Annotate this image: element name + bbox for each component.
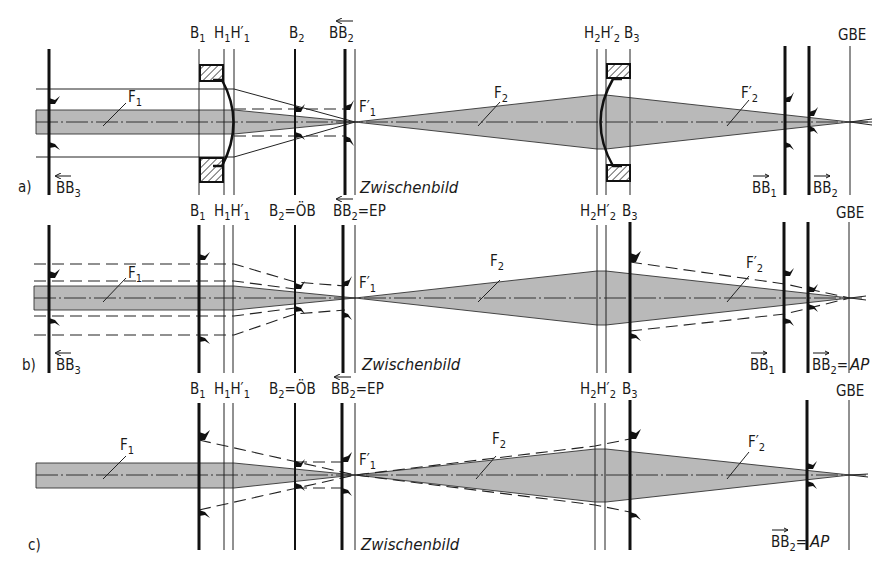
svg-text:GBE: GBE xyxy=(838,26,866,44)
panel-b: B1 H1H′1 B2=ÖB BB2=EP H2H′2B3 GBE F1 F′1… xyxy=(22,199,870,377)
svg-text:BB2=: BB2= xyxy=(771,533,807,554)
svg-text:F1: F1 xyxy=(128,88,142,109)
svg-text:H2H′2B3: H2H′2B3 xyxy=(580,380,638,401)
svg-text:F2: F2 xyxy=(494,84,508,105)
svg-text:F′1: F′1 xyxy=(359,451,376,472)
svg-text:F′2: F′2 xyxy=(748,433,765,454)
svg-text:BB2=EP: BB2=EP xyxy=(331,380,384,401)
svg-text:BB2: BB2 xyxy=(813,179,838,200)
panel-label-b: b) xyxy=(22,356,36,374)
svg-text:AP: AP xyxy=(809,533,830,551)
svg-text:B2: B2 xyxy=(289,24,305,45)
svg-text:GBE: GBE xyxy=(836,382,864,400)
lens1-mount-top xyxy=(200,65,223,81)
svg-text:H2H′2B3: H2H′2B3 xyxy=(580,202,638,223)
svg-text:Zwischenbild: Zwischenbild xyxy=(360,536,460,554)
svg-text:B2=ÖB: B2=ÖB xyxy=(269,201,316,223)
svg-text:F′2: F′2 xyxy=(746,254,763,275)
svg-text:BB1: BB1 xyxy=(752,179,777,200)
svg-text:GBE: GBE xyxy=(836,204,864,222)
svg-text:B2=ÖB: B2=ÖB xyxy=(269,379,316,401)
lens2-mount-top xyxy=(607,64,630,78)
lens1-mount-bottom xyxy=(200,158,223,182)
svg-text:BB3: BB3 xyxy=(56,179,81,200)
svg-text:F1: F1 xyxy=(128,264,142,285)
svg-text:Zwischenbild: Zwischenbild xyxy=(359,179,459,197)
svg-text:AP: AP xyxy=(849,356,870,374)
svg-text:H1H′1: H1H′1 xyxy=(214,202,250,223)
svg-text:F′1: F′1 xyxy=(359,274,376,295)
svg-text:H1H′1: H1H′1 xyxy=(214,380,250,401)
diagram-canvas: B1 H1H′1 B2 BB2 H2H′2B3 GBE F1 F′1 F2 F′… xyxy=(0,0,891,577)
svg-text:F2: F2 xyxy=(492,430,506,451)
panel-c: B1 H1H′1 B2=ÖB BB2=EP H2H′2B3 GBE F1 F′1… xyxy=(28,377,868,554)
svg-text:BB2=EP: BB2=EP xyxy=(333,202,386,223)
svg-text:B1: B1 xyxy=(190,24,206,45)
svg-text:BB1: BB1 xyxy=(750,356,775,377)
optical-diagram: B1 H1H′1 B2 BB2 H2H′2B3 GBE F1 F′1 F2 F′… xyxy=(0,0,891,577)
svg-text:Zwischenbild: Zwischenbild xyxy=(361,356,461,374)
svg-text:H1H′1: H1H′1 xyxy=(214,24,250,45)
svg-text:F′1: F′1 xyxy=(359,98,376,119)
svg-text:F′2: F′2 xyxy=(741,84,758,105)
svg-text:B1: B1 xyxy=(190,202,206,223)
panel-a: B1 H1H′1 B2 BB2 H2H′2B3 GBE F1 F′1 F2 F′… xyxy=(18,21,872,200)
svg-text:BB2: BB2 xyxy=(329,24,354,45)
svg-text:F2: F2 xyxy=(490,252,504,273)
svg-text:H2H′2B3: H2H′2B3 xyxy=(584,24,640,45)
panel-label-a: a) xyxy=(18,178,32,196)
svg-text:B1: B1 xyxy=(190,380,206,401)
lens2-mount-bottom xyxy=(607,165,630,181)
svg-text:BB3: BB3 xyxy=(56,356,81,377)
panel-label-c: c) xyxy=(28,536,41,554)
svg-text:BB2=: BB2= xyxy=(812,356,848,377)
svg-text:F1: F1 xyxy=(120,436,134,457)
